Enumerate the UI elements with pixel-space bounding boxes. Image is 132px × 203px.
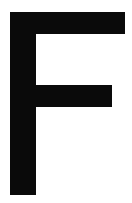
glyph-layer: Black capital letter F on white backgrou… [0,0,132,203]
letter-f-glyph: Black capital letter F on white backgrou… [0,0,132,203]
image-canvas: Black capital letter F on white backgrou… [0,0,132,203]
